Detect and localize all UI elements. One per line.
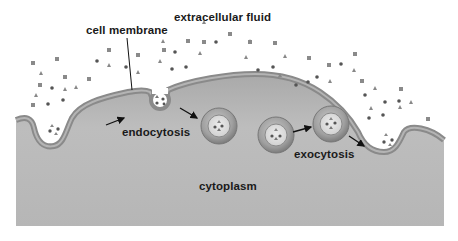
label-cytoplasm: cytoplasm — [199, 180, 257, 192]
endocytosis-exocytosis-diagram: extracellular fluid cell membrane endocy… — [0, 0, 458, 241]
label-endocytosis: endocytosis — [122, 126, 190, 138]
membrane-leader-line — [127, 38, 132, 90]
vesicle-endocytic — [201, 108, 237, 144]
diagram-canvas — [0, 0, 458, 241]
pocket-particles-left — [48, 124, 59, 135]
pocket-particles-right — [382, 133, 393, 146]
vesicle-exocytic — [313, 106, 349, 142]
vesicle-transport — [258, 117, 294, 153]
endocytosis-pocket — [151, 88, 169, 109]
label-extracellular-fluid: extracellular fluid — [174, 11, 271, 23]
label-exocytosis: exocytosis — [294, 148, 354, 160]
label-cell-membrane: cell membrane — [86, 24, 168, 36]
